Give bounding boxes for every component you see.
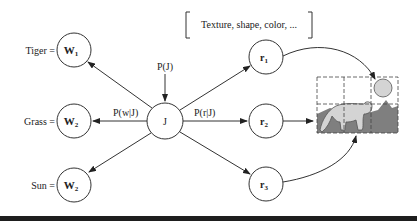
- edge-j-w1: [88, 62, 152, 108]
- feature-bracket: Texture, shape, color, ...: [186, 12, 312, 38]
- segmented-image: [317, 77, 398, 133]
- region-edge-label: P(r|J): [194, 107, 215, 119]
- edge-r1-sun: [283, 48, 375, 79]
- edge-j-w3: [89, 133, 151, 172]
- edge-j-r3: [180, 132, 250, 174]
- center-node-label: J: [163, 116, 167, 127]
- center-node-j: J: [147, 103, 183, 139]
- word-node-2-letter: W: [64, 115, 75, 127]
- prior-label: P(J): [157, 61, 173, 73]
- feature-text: Texture, shape, color, ...: [201, 19, 297, 30]
- edge-r3-grass: [283, 136, 356, 182]
- region-node-3: r3: [249, 167, 283, 201]
- region-node-1: r1: [249, 40, 283, 74]
- word-node-1: W1: [57, 33, 91, 67]
- sun-region: [374, 79, 392, 97]
- word-node-3: W2: [57, 168, 91, 202]
- word-label-grass: Grass =: [24, 116, 55, 127]
- region-node-2: r2: [249, 104, 283, 138]
- bottom-bar: [0, 216, 417, 221]
- word-node-2-sub: 2: [75, 121, 79, 129]
- edge-j-r1: [180, 66, 250, 110]
- word-node-2: W2: [57, 104, 91, 138]
- word-label-tiger: Tiger =: [26, 45, 56, 56]
- word-node-3-sub: 2: [75, 185, 79, 193]
- word-node-3-letter: W: [64, 179, 75, 191]
- cmrm-diagram: Texture, shape, color, ... Tiger = Grass…: [0, 0, 417, 221]
- word-label-sun: Sun =: [31, 180, 55, 191]
- word-node-1-letter: W: [64, 44, 75, 56]
- word-node-1-sub: 1: [75, 50, 79, 58]
- word-edge-label: P(w|J): [113, 107, 138, 119]
